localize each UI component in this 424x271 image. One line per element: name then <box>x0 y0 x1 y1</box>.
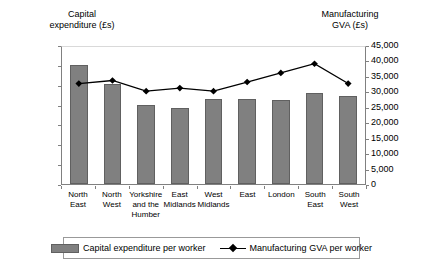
gva-marker-5 <box>244 79 251 86</box>
y-tickmark-right-9 <box>366 46 369 47</box>
x-label-1: North West <box>95 190 129 220</box>
right-axis-title: Manufacturing GVA (£s) <box>300 9 400 31</box>
x-label-7: South East <box>298 190 332 220</box>
legend-item-manufacturing-gva: Manufacturing GVA per worker <box>220 243 372 253</box>
x-tickmark-2 <box>129 186 130 189</box>
x-tickmark-8 <box>332 186 333 189</box>
y-tickmark-right-8 <box>366 61 369 62</box>
gva-marker-1 <box>109 77 116 84</box>
y-tick-right-6: 30,000 <box>371 86 424 96</box>
x-label-6: London <box>264 190 298 220</box>
y-tickmark-right-1 <box>366 170 369 171</box>
gva-marker-3 <box>176 85 183 92</box>
x-label-0: North East <box>61 190 95 220</box>
x-label-5: East <box>230 190 264 220</box>
y-tick-right-9: 45,000 <box>371 40 424 50</box>
x-tickmark-6 <box>264 186 265 189</box>
x-label-2: Yorkshire and the Humber <box>129 190 163 220</box>
y-tickmark-right-3 <box>366 139 369 140</box>
left-axis-title: Capital expenditure (£s) <box>34 9 130 31</box>
y-tickmark-right-2 <box>366 154 369 155</box>
x-label-4: West Midlands <box>197 190 231 220</box>
x-tickmark-1 <box>95 186 96 189</box>
x-tickmark-5 <box>230 186 231 189</box>
y-tick-right-5: 25,000 <box>371 102 424 112</box>
y-tick-right-1: 5,000 <box>371 164 424 174</box>
bar-swatch-icon <box>51 244 79 253</box>
gva-marker-0 <box>75 80 82 87</box>
gva-line-path <box>79 64 348 91</box>
legend-label-capital-expenditure: Capital expenditure per worker <box>83 243 206 253</box>
chart-legend: Capital expenditure per worker Manufactu… <box>63 237 360 259</box>
y-tick-right-7: 35,000 <box>371 71 424 81</box>
x-axis-labels: North EastNorth WestYorkshire and the Hu… <box>61 190 366 220</box>
x-tickmark-4 <box>197 186 198 189</box>
x-tickmark-7 <box>298 186 299 189</box>
y-tick-right-2: 10,000 <box>371 148 424 158</box>
y-tick-right-3: 15,000 <box>371 133 424 143</box>
line-diamond-swatch-icon <box>220 244 246 253</box>
line-series-layer <box>62 47 365 184</box>
y-tick-right-4: 20,000 <box>371 117 424 127</box>
chart-container: Capital expenditure (£s) Manufacturing G… <box>0 0 424 271</box>
y-tickmark-right-5 <box>366 108 369 109</box>
y-tick-right-8: 40,000 <box>371 55 424 65</box>
y-tickmark-right-7 <box>366 77 369 78</box>
x-tickmark-9 <box>366 186 367 189</box>
gva-marker-4 <box>210 88 217 95</box>
x-label-3: East Midlands <box>163 190 197 220</box>
gva-line-svg <box>62 47 365 184</box>
gva-marker-6 <box>277 70 284 77</box>
gva-marker-7 <box>311 60 318 67</box>
gva-marker-8 <box>345 80 352 87</box>
x-tickmark-0 <box>61 186 62 189</box>
y-tickmark-right-6 <box>366 92 369 93</box>
x-label-8: South West <box>332 190 366 220</box>
plot-area <box>61 46 366 185</box>
y-tickmark-right-4 <box>366 123 369 124</box>
legend-label-manufacturing-gva: Manufacturing GVA per worker <box>250 243 372 253</box>
y-tick-right-0: 0 <box>371 179 424 189</box>
legend-item-capital-expenditure: Capital expenditure per worker <box>51 243 206 253</box>
x-tickmark-3 <box>163 186 164 189</box>
gva-marker-2 <box>143 88 150 95</box>
